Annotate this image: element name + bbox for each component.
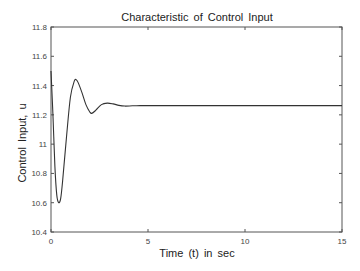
y-tick-label: 11.2 (32, 111, 48, 120)
x-tick-label: 15 (338, 237, 347, 246)
x-axis-label: Time (t) in sec (159, 247, 235, 259)
x-tick-label: 5 (146, 237, 151, 246)
x-tick-label: 10 (241, 237, 250, 246)
y-tick-label: 10.4 (31, 228, 47, 237)
y-tick-label: 11.8 (32, 23, 48, 32)
chart-title: Characteristic of Control Input (121, 11, 273, 23)
y-tick-label: 10.8 (31, 169, 47, 178)
y-axis-label: Control Input, u (16, 103, 28, 182)
x-tick-label: 0 (49, 237, 54, 246)
y-tick-label: 11.6 (32, 52, 48, 61)
chart: 10.410.610.81111.211.411.611.8 051015 Ch… (0, 0, 360, 271)
y-tick-label: 10.6 (31, 199, 47, 208)
y-tick-label: 11.4 (32, 82, 48, 91)
plot-area (51, 27, 342, 232)
y-tick-label: 11 (39, 140, 48, 149)
